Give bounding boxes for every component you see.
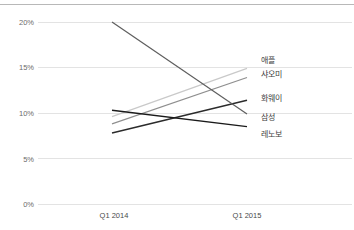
plot-area bbox=[0, 0, 354, 230]
series-label-lenovo: 레노보 bbox=[261, 128, 281, 139]
ytick-label-5: 5% bbox=[4, 155, 34, 164]
ytick-label-15: 15% bbox=[4, 63, 34, 72]
series-label-apple: 애플 bbox=[261, 54, 275, 65]
ytick-label-10: 10% bbox=[4, 109, 34, 118]
series-lines bbox=[112, 22, 247, 133]
ytick-label-0: 0% bbox=[4, 200, 34, 209]
slopegraph-chart: 20% 15% 10% 5% 0% Q1 2014 Q1 2015 애플 샤오미… bbox=[0, 0, 354, 230]
xtick-label-q1-2014: Q1 2014 bbox=[86, 211, 142, 220]
series-label-huawei: 화웨이 bbox=[261, 92, 281, 103]
xtick-label-q1-2015: Q1 2015 bbox=[219, 211, 275, 220]
series-label-xiaomi: 샤오미 bbox=[261, 68, 281, 79]
ytick-label-20: 20% bbox=[4, 18, 34, 27]
series-line bbox=[112, 68, 247, 116]
series-label-samsung: 삼성 bbox=[261, 111, 275, 122]
